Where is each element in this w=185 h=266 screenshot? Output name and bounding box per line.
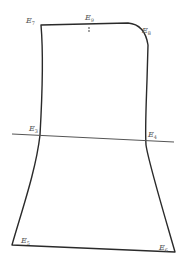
label-e6: E6 — [158, 243, 168, 253]
label-e8: E8 — [141, 26, 151, 36]
label-e4: E4 — [147, 130, 157, 140]
label-e9: E9 — [84, 13, 94, 23]
label-e7: E7 — [25, 16, 35, 26]
label-e3: E3 — [28, 124, 38, 134]
label-e5: E5 — [20, 236, 30, 246]
shape-diagram: E7 E9 E8 E3 E4 E5 E6 — [0, 0, 185, 266]
e9-marker-dot-upper — [88, 27, 90, 29]
e9-marker-dot-lower — [88, 30, 90, 32]
